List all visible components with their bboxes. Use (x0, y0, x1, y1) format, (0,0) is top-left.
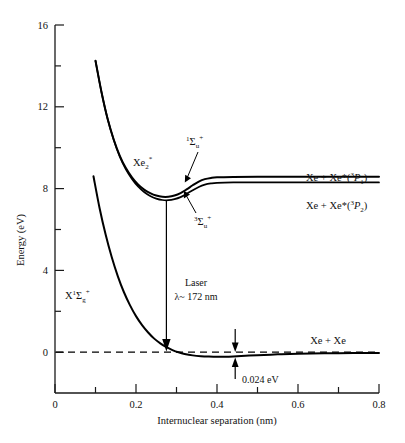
x-major-ticks (55, 384, 379, 393)
label-excited-state-sub: 2 (145, 163, 149, 171)
x-axis-title: Internuclear separation (nm) (157, 415, 277, 427)
potential-energy-diagram: 16 12 8 4 0 Energy (eV) 0 (0, 0, 405, 443)
label-asymptote-3p2: Xe + Xe*(3P2) (306, 199, 368, 214)
label-laser-wavelength: λ~ 172 nm (174, 291, 217, 302)
label-ground-asymptote: Xe + Xe (310, 335, 346, 346)
label-excited-state-sup: * (149, 155, 153, 163)
label-triplet-sigma-u: 3Σu+ (194, 214, 211, 230)
label-ground-postsup: + (86, 288, 90, 296)
label-3p2-pre: Xe + Xe*( (306, 200, 351, 212)
label-3p1-pre: Xe + Xe*( (306, 172, 351, 184)
label-3p1-post: ) (364, 172, 368, 184)
well-depth-arrow-head-up (232, 358, 239, 368)
figure-container: 16 12 8 4 0 Energy (eV) 0 (0, 0, 405, 443)
label-ground-sub: g (82, 296, 86, 304)
x-tick-label-0.4: 0.4 (210, 399, 224, 410)
label-excited-state-base: Xe (133, 157, 146, 168)
x-tick-label-0.6: 0.6 (291, 399, 304, 410)
label-excited-state: Xe2* (133, 155, 153, 171)
x-tick-label-0: 0 (52, 399, 57, 410)
y-tick-label-4: 4 (43, 265, 49, 276)
label-triplet-sub: u (204, 222, 208, 230)
label-singlet-postsup: + (199, 134, 203, 142)
y-tick-label-12: 12 (38, 101, 49, 112)
label-laser-title: Laser (185, 277, 208, 288)
label-3p2-post: ) (364, 200, 368, 212)
well-depth-marker (232, 329, 239, 379)
label-well-depth: 0.024 eV (242, 374, 279, 385)
y-axis-title: Energy (eV) (15, 214, 27, 266)
well-depth-arrow-head-down (232, 343, 239, 353)
label-ground-state: X1Σg+ (65, 288, 90, 304)
y-tick-label-16: 16 (38, 20, 49, 31)
y-tick-label-8: 8 (43, 183, 48, 194)
label-singlet-sub: u (196, 142, 200, 150)
x-tick-label-0.2: 0.2 (129, 399, 142, 410)
label-asymptote-3p1: Xe + Xe*(3P1) (306, 171, 368, 186)
x-tick-label-0.8: 0.8 (372, 399, 385, 410)
label-triplet-postsup: + (207, 214, 211, 222)
y-major-ticks (55, 25, 64, 352)
y-tick-label-0: 0 (43, 347, 48, 358)
laser-transition-arrow (162, 200, 170, 352)
label-singlet-sigma-u: 1Σu+ (186, 134, 203, 150)
